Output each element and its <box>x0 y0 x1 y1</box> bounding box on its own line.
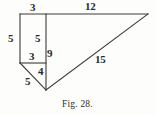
figure-container: 3 12 5 5 3 9 15 4 5 Fig. 28. <box>0 0 156 115</box>
label-rect-bottom: 3 <box>29 51 34 62</box>
label-rect-left: 5 <box>8 33 13 44</box>
label-rect-inner-right: 5 <box>35 33 40 44</box>
label-triangle-vertical: 9 <box>47 48 52 59</box>
label-small-tri-hypotenuse: 5 <box>25 76 30 87</box>
geometry-diagram <box>0 0 156 115</box>
label-triangle-hypotenuse: 15 <box>95 54 105 65</box>
label-rect-top: 3 <box>30 2 35 13</box>
edge-large-hypotenuse-15 <box>46 14 148 90</box>
figure-caption: Fig. 28. <box>62 99 93 109</box>
label-small-tri-vertical: 4 <box>38 66 43 77</box>
label-triangle-top: 12 <box>85 1 95 12</box>
